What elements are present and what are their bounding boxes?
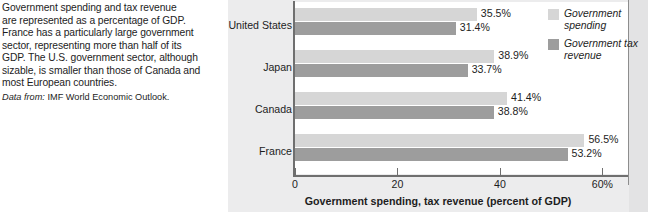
- legend-swatch-icon-revenue: [548, 39, 559, 50]
- bar-revenue-japan: [295, 64, 468, 77]
- chart-legend: Government spending Government tax reven…: [548, 8, 648, 68]
- x-tick-mark: [397, 168, 398, 176]
- data-source-text: IMF World Economic Outlook.: [47, 92, 169, 102]
- legend-label-spending: Government spending: [564, 8, 642, 32]
- category-label-france: France: [142, 145, 292, 157]
- bar-spending-france: [295, 134, 584, 147]
- bar-value-spending-united-states: 35.5%: [481, 7, 511, 19]
- bar-value-revenue-france: 53.2%: [572, 147, 602, 159]
- legend-item-government-tax-revenue: Government tax revenue: [548, 38, 648, 62]
- x-tick-label-40: 40: [494, 178, 506, 190]
- bar-value-spending-japan: 38.9%: [498, 49, 528, 61]
- bar-revenue-united-states: [295, 22, 456, 35]
- bar-spending-united-states: [295, 8, 477, 21]
- bar-revenue-canada: [295, 106, 494, 119]
- legend-label-revenue: Government tax revenue: [564, 38, 642, 62]
- legend-item-government-spending: Government spending: [548, 8, 648, 32]
- caption-line: sector, representing more than half of i…: [2, 40, 222, 53]
- x-axis-line: [293, 175, 628, 177]
- category-label-canada: Canada: [142, 103, 292, 115]
- x-tick-label-60: 60%: [592, 178, 613, 190]
- chart-panel: United States 35.5% 31.4% Japan 38.9% 33…: [228, 0, 648, 212]
- x-tick-mark: [295, 168, 296, 176]
- bar-value-revenue-japan: 33.7%: [472, 63, 502, 75]
- x-tick-label-20: 20: [392, 178, 404, 190]
- caption-line: Government spending and tax revenue: [2, 2, 222, 15]
- category-label-united-states: United States: [142, 19, 292, 31]
- data-source-note: Data from: IMF World Economic Outlook.: [2, 91, 222, 103]
- bar-value-spending-canada: 41.4%: [511, 91, 541, 103]
- bar-value-revenue-united-states: 31.4%: [460, 21, 490, 33]
- x-tick-mark: [500, 168, 501, 176]
- data-source-label: Data from:: [2, 92, 45, 102]
- x-tick-label-0: 0: [292, 178, 298, 190]
- x-tick-mark: [602, 168, 603, 176]
- legend-swatch-icon-spending: [548, 9, 559, 20]
- bar-value-revenue-canada: 38.8%: [498, 105, 528, 117]
- bar-revenue-france: [295, 148, 568, 161]
- caption-line: most European countries.: [2, 77, 222, 90]
- category-label-japan: Japan: [142, 61, 292, 73]
- bar-spending-canada: [295, 92, 507, 105]
- x-axis-title: Government spending, tax revenue (percen…: [228, 195, 648, 207]
- bar-value-spending-france: 56.5%: [588, 133, 618, 145]
- bar-spending-japan: [295, 50, 494, 63]
